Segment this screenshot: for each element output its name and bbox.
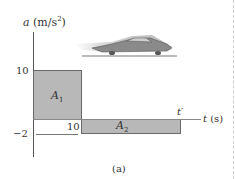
y-axis-close: ) (62, 16, 66, 29)
a2-sub: 2 (124, 126, 128, 134)
region-a1-label: A1 (51, 91, 63, 105)
region-a2 (81, 119, 181, 134)
a1-name: A (51, 89, 59, 102)
margin-dashed-line (233, 0, 234, 179)
figure-caption: (a) (112, 164, 126, 174)
neg2-guide-line (36, 134, 78, 135)
y-axis-label: a (m/s2) (23, 14, 66, 28)
y-tick-neg2: −2 (13, 129, 28, 139)
x-tick-10: 10 (67, 122, 80, 132)
y-tick-10: 10 (16, 66, 29, 76)
a2-name: A (116, 119, 124, 132)
t-axis-label: t (s) (203, 114, 223, 124)
x-tick-t-prime: t′ (177, 107, 183, 117)
a1-sub: 1 (59, 96, 63, 104)
y-axis-var: a (23, 16, 30, 29)
y-axis-unit: (m/s (33, 16, 57, 29)
t-axis (33, 119, 201, 120)
race-car-icon (72, 20, 182, 60)
race-car-illustration (72, 20, 182, 60)
t-axis-var: t (203, 113, 207, 124)
t-prime-mark: ′ (181, 106, 183, 117)
t-axis-unit: (s) (210, 113, 223, 124)
region-a2-label: A2 (116, 121, 128, 135)
